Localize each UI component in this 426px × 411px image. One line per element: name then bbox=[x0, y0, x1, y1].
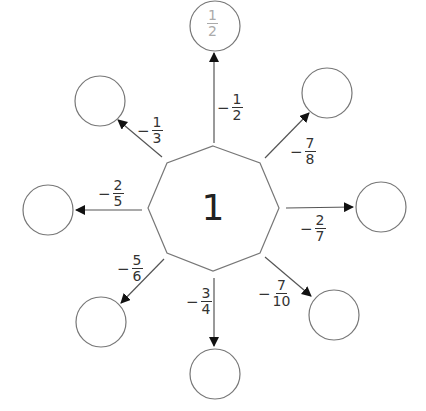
op-label-bottom: − 34 bbox=[186, 286, 212, 317]
result-circle-left[interactable] bbox=[23, 185, 73, 235]
result-denominator: 2 bbox=[208, 24, 217, 39]
op-label-right: − 27 bbox=[300, 213, 326, 244]
op-label-top: − 12 bbox=[217, 92, 243, 123]
center-value: 1 bbox=[193, 188, 233, 228]
op-label-lower-left: − 56 bbox=[117, 253, 143, 284]
result-numerator: 1 bbox=[207, 8, 218, 24]
op-label-upper-right: − 78 bbox=[290, 136, 316, 167]
op-label-lower-right: − 710 bbox=[258, 278, 290, 309]
result-circle-lower-right[interactable] bbox=[309, 290, 359, 340]
result-circle-bottom[interactable] bbox=[190, 349, 240, 399]
op-label-upper-left: − 13 bbox=[137, 115, 163, 146]
result-circle-upper-left[interactable] bbox=[75, 76, 125, 126]
op-label-left: − 25 bbox=[98, 178, 124, 209]
result-value-top: 1 2 bbox=[207, 8, 218, 39]
result-circle-right[interactable] bbox=[356, 182, 406, 232]
result-circle-lower-left[interactable] bbox=[76, 297, 126, 347]
arrow-right bbox=[286, 207, 353, 208]
result-circle-upper-right[interactable] bbox=[302, 68, 352, 118]
